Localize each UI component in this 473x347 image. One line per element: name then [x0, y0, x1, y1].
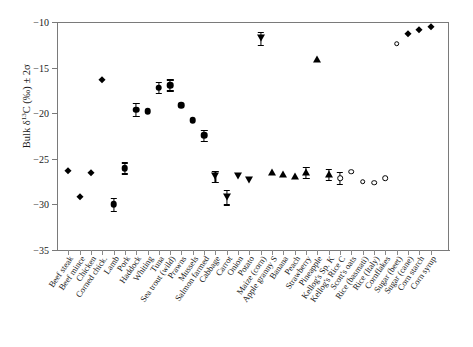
data-point-diamond — [64, 167, 72, 175]
data-point-circle-filled — [144, 108, 151, 115]
data-point-triangle-down — [211, 173, 219, 180]
data-point-diamond — [427, 24, 435, 32]
error-bar-cap — [258, 32, 264, 33]
data-point-diamond — [404, 30, 412, 38]
data-point-triangle-up — [325, 171, 333, 178]
y-axis-tick-label: −35 — [33, 250, 49, 251]
error-bar-cap — [212, 182, 218, 183]
error-bar-cap — [201, 141, 207, 142]
error-bar-cap — [326, 169, 332, 170]
error-bar-cap — [212, 171, 218, 172]
error-bar-cap — [110, 211, 116, 212]
y-axis-tick — [52, 113, 58, 114]
error-bar-cap — [201, 130, 207, 131]
data-point-circle-filled — [122, 165, 129, 172]
data-point-circle-open — [349, 169, 355, 175]
error-bar-cap — [258, 45, 264, 46]
data-point-triangle-up — [313, 56, 321, 63]
data-point-triangle-down — [245, 176, 253, 183]
data-point-circle-open — [337, 175, 343, 181]
data-point-circle-open — [360, 179, 366, 185]
data-point-circle-filled — [133, 106, 140, 113]
data-point-circle-filled — [201, 132, 208, 139]
data-point-triangle-down — [223, 194, 231, 201]
error-bar-cap — [156, 93, 162, 94]
y-axis-tick-label: −30 — [33, 204, 49, 205]
data-point-triangle-up — [268, 168, 276, 175]
plot-area: −10−15−20−25−30−35 — [57, 22, 450, 251]
y-axis-tick — [52, 204, 58, 205]
data-point-circle-filled — [178, 102, 185, 109]
data-point-diamond — [98, 77, 106, 85]
error-bar-cap — [224, 190, 230, 191]
error-bar-cap — [326, 180, 332, 181]
data-point-circle-filled — [167, 82, 174, 89]
y-axis-tick — [52, 159, 58, 160]
data-point-diamond — [87, 170, 95, 178]
y-axis-tick-label: −15 — [33, 68, 49, 69]
error-bar-cap — [133, 116, 139, 117]
y-axis-tick — [52, 250, 58, 251]
error-bar-cap — [167, 90, 173, 91]
data-point-triangle-up — [279, 171, 287, 178]
y-axis-tick-label: −10 — [33, 22, 49, 23]
data-point-triangle-up — [291, 173, 299, 180]
y-axis-title: Bulk δ13C (‰) ± 2σ — [20, 36, 33, 176]
data-point-circle-open — [394, 41, 400, 47]
y-axis-tick — [52, 68, 58, 69]
error-bar-cap — [133, 103, 139, 104]
error-bar-cap — [337, 172, 343, 173]
error-bar-cap — [167, 79, 173, 80]
data-point-circle-open — [383, 175, 389, 181]
data-point-circle-filled — [110, 201, 117, 208]
error-bar-cap — [156, 82, 162, 83]
data-point-circle-filled — [156, 84, 163, 91]
data-point-diamond — [76, 193, 84, 201]
y-axis-tick-label: −20 — [33, 113, 49, 114]
figure-scatter-plot: Bulk δ13C (‰) ± 2σ −10−15−20−25−30−35 Be… — [0, 0, 473, 347]
y-axis-tick-label: −25 — [33, 159, 49, 160]
data-point-circle-filled — [190, 117, 197, 124]
data-point-circle-open — [371, 180, 377, 186]
error-bar-cap — [110, 198, 116, 199]
error-bar-cap — [337, 184, 343, 185]
error-bar-cap — [122, 173, 128, 174]
data-point-triangle-down — [234, 173, 242, 180]
error-bar-cap — [122, 162, 128, 163]
error-bar-cap — [303, 178, 309, 179]
data-point-triangle-up — [302, 169, 310, 176]
error-bar-cap — [303, 167, 309, 168]
data-point-triangle-down — [257, 35, 265, 42]
y-axis-tick — [52, 22, 58, 23]
data-point-diamond — [416, 26, 424, 34]
error-bar-cap — [224, 204, 230, 205]
